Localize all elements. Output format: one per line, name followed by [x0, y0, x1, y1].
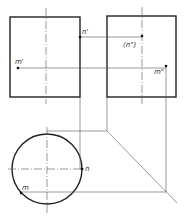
- front-view: [10, 8, 80, 104]
- top-view: [8, 127, 86, 213]
- label-m-side: m": [154, 68, 164, 76]
- points: [17, 35, 168, 195]
- point-m-side: [165, 65, 168, 68]
- point-m-top: [20, 192, 23, 195]
- label-n-front: n': [82, 28, 88, 36]
- projection-drawing: n' m' (n") m" n m: [0, 0, 186, 221]
- projection-lines: [18, 37, 177, 203]
- front-view-outline: [10, 17, 80, 97]
- side-view-outline: [107, 16, 176, 97]
- label-m-top: m: [22, 184, 29, 192]
- side-view: [107, 7, 176, 104]
- label-n-top: n: [85, 165, 89, 173]
- point-n-front: [79, 36, 82, 39]
- point-n-side: [141, 35, 144, 38]
- label-n-side: (n"): [123, 41, 136, 49]
- point-n-top: [81, 168, 84, 171]
- label-m-front: m': [15, 58, 24, 66]
- point-m-front: [17, 67, 20, 70]
